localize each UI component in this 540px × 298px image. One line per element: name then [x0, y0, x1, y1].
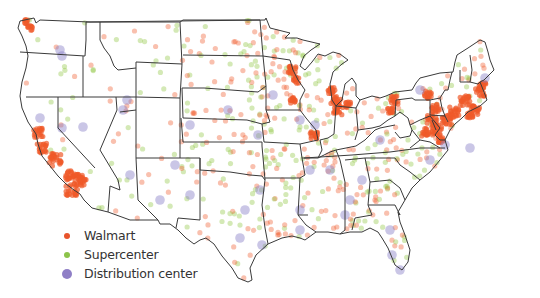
legend: Walmart Supercenter Distribution center — [62, 226, 197, 283]
legend-item-walmart: Walmart — [62, 226, 197, 245]
legend-label: Distribution center — [84, 266, 197, 281]
legend-label: Walmart — [84, 228, 135, 243]
legend-item-supercenter: Supercenter — [62, 245, 197, 264]
supercenter-dot-icon — [64, 252, 70, 258]
legend-item-distribution-center: Distribution center — [62, 264, 197, 283]
state-lines — [20, 20, 480, 244]
distribution-center-dot-icon — [62, 269, 72, 279]
walmart-map-figure: Walmart Supercenter Distribution center — [0, 0, 540, 298]
walmart-dot-icon — [64, 233, 70, 239]
legend-label: Supercenter — [84, 247, 158, 262]
